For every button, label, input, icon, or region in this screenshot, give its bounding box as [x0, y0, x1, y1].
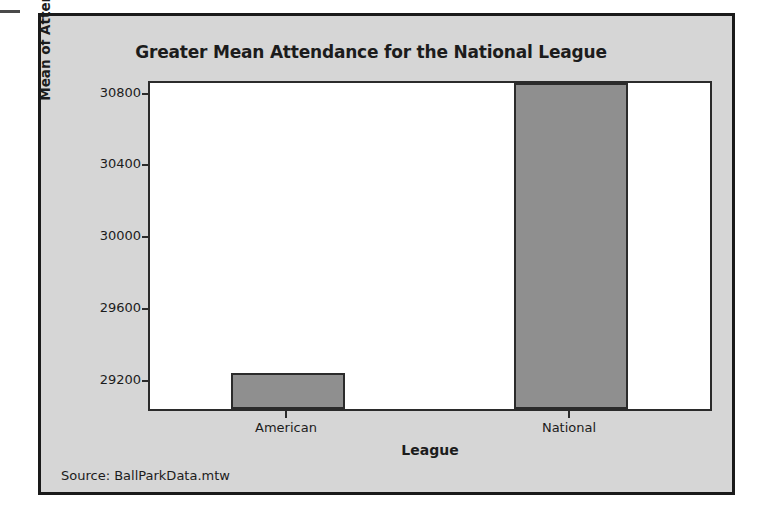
x-axis-tick-mark: [285, 411, 287, 418]
bar-national: [514, 83, 628, 409]
scan-edge-artifact: [0, 10, 20, 13]
y-axis-tick-label: 30400: [79, 156, 141, 171]
y-axis-title: Mean of Attendance: [37, 0, 53, 134]
x-axis-tick-label: National: [489, 420, 649, 435]
bars-layer: [150, 83, 710, 409]
bar-american: [231, 373, 345, 409]
chart-title: Greater Mean Attendance for the National…: [41, 42, 701, 62]
x-axis-tick-mark: [568, 411, 570, 418]
x-axis-title: League: [148, 442, 712, 458]
source-note: Source: BallParkData.mtw: [61, 468, 230, 483]
y-axis-tick-label: 30800: [79, 85, 141, 100]
graph-panel: Greater Mean Attendance for the National…: [38, 13, 735, 495]
plot-area: [148, 81, 712, 411]
x-axis-tick-label: American: [206, 420, 366, 435]
y-axis-tick-label: 29600: [79, 300, 141, 315]
y-axis-tick-label: 29200: [79, 372, 141, 387]
y-axis-tick-label: 30000: [79, 228, 141, 243]
